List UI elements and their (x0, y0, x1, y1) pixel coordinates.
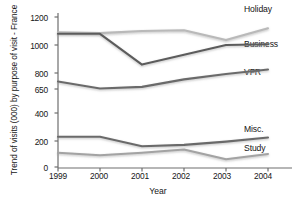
series-line-study (58, 149, 268, 159)
series-line-misc (58, 137, 268, 146)
axis-lines (55, 13, 293, 172)
series-line-business (58, 34, 268, 65)
series-lines (58, 28, 268, 159)
line-chart: Trend of visits (000) by purpose of visi… (0, 0, 298, 201)
plot-area (0, 0, 298, 201)
series-line-vfr (58, 70, 268, 89)
